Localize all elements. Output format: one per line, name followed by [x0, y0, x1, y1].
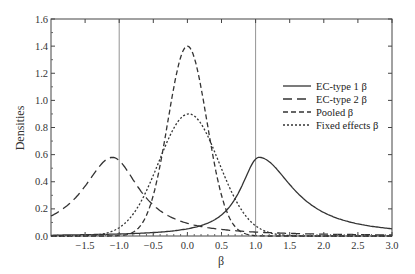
x-tick-label: −0.5	[144, 240, 163, 251]
legend-item: EC-type 2 β	[283, 94, 367, 105]
legend-item: Pooled β	[283, 107, 353, 118]
x-tick-label: 1.5	[283, 240, 296, 251]
y-tick-label: 0.0	[35, 231, 48, 242]
legend-label: Pooled β	[316, 107, 353, 118]
x-tick-label: 2.5	[351, 240, 364, 251]
x-tick-label: 0.0	[181, 240, 194, 251]
legend-label: EC-type 2 β	[316, 94, 367, 105]
x-axis-label: β	[218, 254, 224, 268]
y-tick-label: 0.6	[35, 149, 48, 160]
y-tick-label: 0.8	[35, 122, 48, 133]
y-axis-label: Densities	[13, 105, 27, 150]
legend-item: Fixed effects β	[283, 120, 378, 131]
legend-item: EC-type 1 β	[283, 81, 367, 92]
density-curve-4	[51, 114, 392, 236]
y-tick-label: 1.4	[35, 41, 49, 52]
y-tick-label: 0.4	[35, 176, 49, 187]
x-tick-label: 0.5	[215, 240, 228, 251]
legend-label: EC-type 1 β	[316, 81, 367, 92]
density-curve-3	[51, 46, 392, 236]
y-tick-label: 0.2	[35, 203, 48, 214]
legend: EC-type 1 βEC-type 2 βPooled βFixed effe…	[283, 81, 378, 131]
x-tick-label: −1.0	[110, 240, 129, 251]
x-tick-label: 1.0	[249, 240, 262, 251]
density-curves	[51, 46, 392, 236]
y-tick-label: 1.2	[35, 68, 48, 79]
density-chart: −1.5−1.0−0.50.00.51.01.52.02.53.0 0.00.2…	[0, 0, 415, 274]
x-tick-label: 3.0	[385, 240, 398, 251]
y-tick-label: 1.0	[35, 95, 48, 106]
x-tick-label: 2.0	[317, 240, 330, 251]
legend-label: Fixed effects β	[316, 120, 378, 131]
x-tick-label: −1.5	[76, 240, 95, 251]
y-tick-label: 1.6	[35, 14, 48, 25]
